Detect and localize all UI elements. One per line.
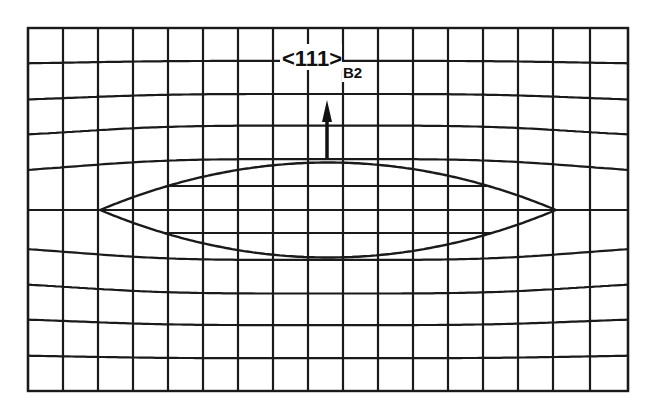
lattice-svg: <111> B2 <box>0 0 652 412</box>
phase-subscript-label: B2 <box>343 64 362 81</box>
direction-arrow-icon <box>322 100 332 158</box>
horizontal-grid-line <box>28 159 628 170</box>
horizontal-grid-line <box>28 320 628 326</box>
horizontal-grid-line <box>28 356 628 359</box>
arrow-head <box>322 100 332 122</box>
miller-index-label: <111> <box>282 46 342 71</box>
direction-label: <111> B2 <box>280 44 370 82</box>
lattice-diagram: <111> B2 <box>0 0 652 412</box>
horizontal-grid-lines <box>28 28 628 391</box>
horizontal-grid-line <box>28 285 628 294</box>
horizontal-grid-line <box>28 94 628 99</box>
